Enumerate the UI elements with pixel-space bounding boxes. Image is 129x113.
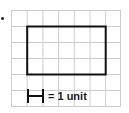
bullet-marker (1, 17, 4, 20)
unit-legend-label: = 1 unit (48, 90, 87, 102)
rectangle-shape (27, 27, 106, 75)
unit-legend: = 1 unit (27, 88, 87, 104)
unit-bracket-icon (27, 89, 44, 103)
